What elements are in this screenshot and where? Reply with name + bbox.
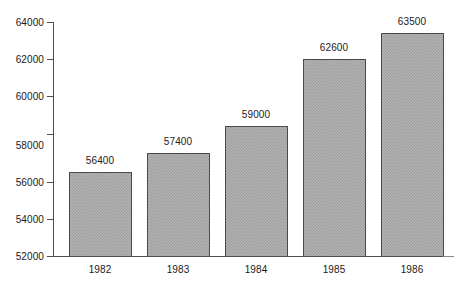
y-axis-tick-label: 62000	[16, 54, 44, 65]
y-axis-tick-mark	[47, 22, 53, 23]
bar-value-label-1982: 56400	[86, 155, 114, 166]
y-axis-tick-mark	[47, 134, 53, 135]
x-axis-tick-label-1984: 1984	[245, 264, 268, 275]
y-axis-tick-label: 54000	[16, 214, 44, 225]
bar-value-label-1985: 62600	[320, 42, 348, 53]
y-axis-tick-mark	[47, 59, 53, 60]
bar-chart: 64000 62000 60000 58000 56000 54000 5200…	[0, 0, 467, 295]
y-axis-tick-label: 58000	[16, 140, 44, 151]
bar-value-label-1983: 57400	[164, 136, 192, 147]
y-axis-tick-label: 52000	[16, 251, 44, 262]
x-axis-tick-label-1982: 1982	[89, 264, 112, 275]
bar-1986	[381, 33, 444, 257]
y-axis-tick-label: 56000	[16, 177, 44, 188]
y-axis-line	[53, 22, 54, 257]
bar-value-label-1984: 59000	[242, 109, 270, 120]
bar-1985	[303, 59, 366, 257]
y-axis-tick-mark	[47, 219, 53, 220]
x-axis-tick-label-1983: 1983	[167, 264, 190, 275]
bar-1982	[69, 172, 132, 257]
y-axis-tick-label: 60000	[16, 91, 44, 102]
y-axis-tick-mark	[47, 182, 53, 183]
bar-1984	[225, 126, 288, 257]
x-axis-tick-label-1986: 1986	[401, 264, 424, 275]
x-axis-tick-label-1985: 1985	[323, 264, 346, 275]
x-axis-line	[53, 256, 443, 257]
bar-1983	[147, 153, 210, 257]
bar-value-label-1986: 63500	[398, 16, 426, 27]
y-axis-tick-mark	[47, 96, 53, 97]
y-axis-tick-label: 64000	[16, 17, 44, 28]
